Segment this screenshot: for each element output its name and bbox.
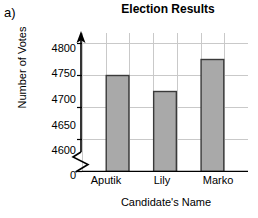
- y-tick-label: 4800: [34, 43, 76, 54]
- x-tick-label-aputik: Aputik: [78, 175, 134, 186]
- panel-label: a): [4, 6, 16, 19]
- chart-title: Election Results: [78, 3, 258, 15]
- y-tick-label: 4650: [34, 120, 76, 131]
- y-tick-label: 4700: [34, 94, 76, 105]
- bars-group: [106, 60, 224, 172]
- y-tick-label: 4750: [34, 68, 76, 79]
- x-tick-label-marko: Marko: [190, 175, 246, 186]
- bar-aputik: [106, 76, 129, 172]
- y-axis-tick-labels: 4800 4750 4700 4650 4600 0: [30, 0, 76, 218]
- y-tick-label: 4600: [34, 145, 76, 156]
- bar-marko: [201, 60, 224, 172]
- y-axis-label: Number of Votes: [17, 13, 28, 123]
- bar-lily: [154, 92, 177, 172]
- x-axis-label: Candidate's Name: [78, 197, 254, 208]
- y-tick-label-zero: 0: [34, 170, 76, 181]
- plot-area: [82, 33, 248, 172]
- x-tick-label-lily: Lily: [134, 175, 190, 186]
- bar-chart-svg: [82, 33, 248, 172]
